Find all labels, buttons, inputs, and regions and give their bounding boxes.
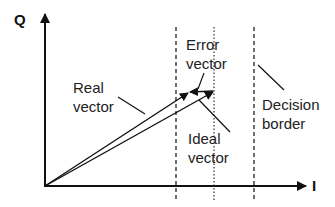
real-vector — [45, 93, 188, 186]
i-axis-label: I — [312, 177, 316, 194]
q-axis-label: Q — [14, 11, 26, 28]
real-vector-leader — [118, 97, 145, 114]
decision-border-leader — [258, 65, 284, 90]
error-vector — [190, 91, 213, 92]
error-vector-leader — [198, 73, 204, 89]
